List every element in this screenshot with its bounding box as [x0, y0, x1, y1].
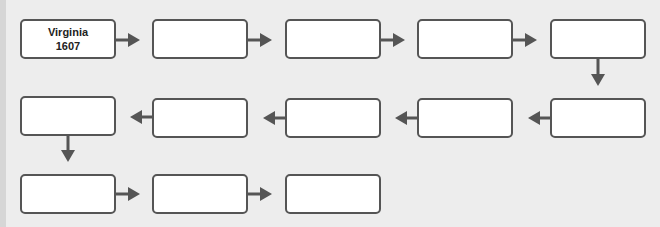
arrow-left-icon	[395, 111, 417, 125]
arrows-layer	[0, 0, 660, 227]
arrow-down-icon	[591, 59, 605, 86]
arrow-right-icon	[513, 33, 537, 47]
arrow-right-icon	[381, 33, 405, 47]
arrow-down-icon	[61, 135, 75, 162]
arrow-right-icon	[248, 33, 272, 47]
arrow-left-icon	[130, 110, 152, 124]
arrow-right-icon	[248, 187, 272, 201]
arrow-right-icon	[116, 33, 140, 47]
arrow-right-icon	[116, 187, 140, 201]
arrow-left-icon	[528, 111, 550, 125]
arrow-left-icon	[263, 111, 285, 125]
